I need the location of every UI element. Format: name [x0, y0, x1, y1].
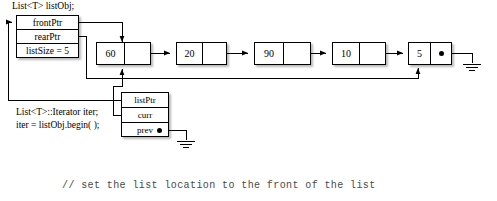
ground-symbol-node4 [463, 64, 481, 70]
node-value: 60 [97, 43, 125, 64]
field-prev-label: prev [137, 125, 153, 135]
edge-frontptr-to-node0 [79, 22, 122, 42]
node-value: 90 [255, 43, 284, 64]
code-comment: // set the list location to the front of… [62, 180, 376, 191]
iterator-struct: listPtr curr prev [121, 92, 169, 137]
iterator-declaration: List<T>::Iterator iter; iter = listObj.b… [16, 106, 126, 132]
listobj-struct: frontPtr rearPtr listSize = 5 [16, 15, 79, 58]
node-value: 20 [177, 43, 203, 64]
list-node: 60 [96, 42, 151, 65]
field-listptr: listPtr [122, 93, 168, 108]
null-pointer-dot-icon [157, 128, 162, 133]
edge-node4-to-ground [452, 53, 472, 63]
field-curr: curr [122, 108, 168, 123]
field-frontptr: frontPtr [17, 16, 78, 30]
node-link [125, 43, 150, 64]
node-value: 5 [409, 43, 431, 64]
node-link-null [431, 43, 451, 64]
iterator-decl-line2: iter = listObj.begin( ); [16, 119, 126, 132]
list-node: 5 [408, 42, 452, 65]
node-link [284, 43, 310, 64]
null-pointer-dot-icon [439, 51, 444, 56]
diagram-canvas: List<T> listObj; frontPtr rearPtr listSi… [0, 0, 497, 201]
iterator-decl-line1: List<T>::Iterator iter; [16, 106, 126, 119]
field-listsize: listSize = 5 [17, 44, 78, 58]
field-prev: prev [122, 123, 168, 138]
node-value: 10 [333, 43, 360, 64]
node-link [203, 43, 226, 64]
list-node: 20 [176, 42, 227, 65]
listobj-title-label: List<T> listObj; [12, 1, 112, 11]
field-rearptr: rearPtr [17, 30, 78, 44]
edge-prev-to-ground [166, 130, 186, 140]
list-node: 90 [254, 42, 311, 65]
list-node: 10 [332, 42, 386, 65]
ground-symbol-iterator [177, 141, 195, 147]
node-link [360, 43, 385, 64]
